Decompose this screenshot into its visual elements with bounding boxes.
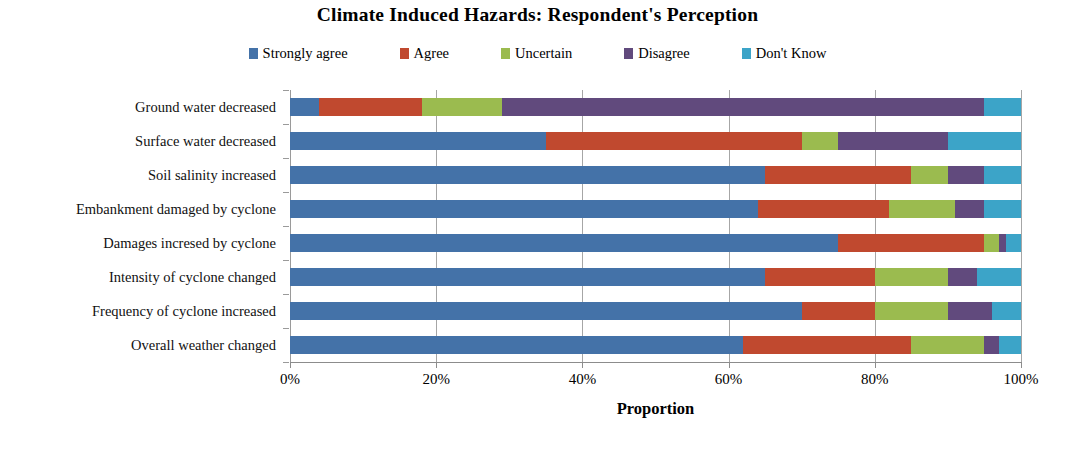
bar-segment[interactable] <box>502 98 984 116</box>
bar-segment[interactable] <box>911 166 948 184</box>
legend-item[interactable]: Agree <box>400 46 449 61</box>
stacked-bar[interactable] <box>290 234 1021 252</box>
bar-row <box>290 226 1021 260</box>
stacked-bar[interactable] <box>290 336 1021 354</box>
bar-segment[interactable] <box>290 132 546 150</box>
stacked-bar[interactable] <box>290 302 1021 320</box>
bar-row <box>290 328 1021 362</box>
bar-segment[interactable] <box>290 98 319 116</box>
bar-segment[interactable] <box>290 336 743 354</box>
stacked-bar[interactable] <box>290 166 1021 184</box>
x-axis-ticks <box>290 362 1021 368</box>
legend-label: Don't Know <box>756 46 827 61</box>
bar-segment[interactable] <box>802 132 839 150</box>
legend-item[interactable]: Uncertain <box>501 46 572 61</box>
legend-swatch-icon <box>742 48 751 59</box>
y-axis-label: Ground water decreased <box>0 90 283 124</box>
bar-segment[interactable] <box>948 132 1021 150</box>
legend-swatch-icon <box>624 48 633 59</box>
stacked-bar[interactable] <box>290 268 1021 286</box>
x-axis-tick <box>875 362 876 368</box>
y-axis-label: Frequency of cyclone increased <box>0 294 283 328</box>
legend-swatch-icon <box>501 48 510 59</box>
y-axis-tick <box>283 90 289 91</box>
gridline <box>1021 90 1022 362</box>
chart-title: Climate Induced Hazards: Respondent's Pe… <box>0 4 1075 26</box>
bar-segment[interactable] <box>838 132 948 150</box>
x-axis-title: Proportion <box>290 399 1021 419</box>
bar-row <box>290 192 1021 226</box>
bar-segment[interactable] <box>999 336 1021 354</box>
bar-segment[interactable] <box>984 166 1021 184</box>
bar-segment[interactable] <box>290 200 758 218</box>
bar-segment[interactable] <box>875 268 948 286</box>
stacked-bar[interactable] <box>290 132 1021 150</box>
legend-swatch-icon <box>400 48 409 59</box>
y-axis-label: Soil salinity increased <box>0 158 283 192</box>
x-axis-tick-label: 20% <box>422 371 450 388</box>
y-axis-label: Intensity of cyclone changed <box>0 260 283 294</box>
x-axis-tick-label: 40% <box>569 371 597 388</box>
bar-row <box>290 158 1021 192</box>
bar-segment[interactable] <box>758 200 890 218</box>
bar-segment[interactable] <box>948 302 992 320</box>
bar-segment[interactable] <box>948 166 985 184</box>
bar-segment[interactable] <box>984 234 999 252</box>
x-axis-tick <box>1021 362 1022 368</box>
legend-item[interactable]: Strongly agree <box>249 46 348 61</box>
y-axis-tick <box>283 294 289 295</box>
bar-segment[interactable] <box>992 302 1021 320</box>
stacked-bar[interactable] <box>290 98 1021 116</box>
bar-segment[interactable] <box>875 302 948 320</box>
bar-segment[interactable] <box>290 268 765 286</box>
legend-label: Disagree <box>638 46 690 61</box>
bar-segment[interactable] <box>889 200 955 218</box>
bar-segment[interactable] <box>765 268 875 286</box>
bar-segment[interactable] <box>802 302 875 320</box>
y-axis-tick <box>283 158 289 159</box>
x-axis-tick-label: 100% <box>1004 371 1039 388</box>
bar-segment[interactable] <box>948 268 977 286</box>
y-axis-label: Surface water decreased <box>0 124 283 158</box>
x-axis-tick <box>729 362 730 368</box>
bar-row <box>290 90 1021 124</box>
legend-label: Uncertain <box>515 46 572 61</box>
bar-segment[interactable] <box>422 98 502 116</box>
bar-row <box>290 294 1021 328</box>
bar-segment[interactable] <box>546 132 802 150</box>
stacked-bar-chart: Climate Induced Hazards: Respondent's Pe… <box>0 0 1075 457</box>
bar-segment[interactable] <box>290 234 838 252</box>
x-axis-tick <box>582 362 583 368</box>
y-axis-labels: Ground water decreasedSurface water decr… <box>0 90 283 362</box>
y-axis-tick <box>283 328 289 329</box>
x-axis-tick-label: 0% <box>280 371 300 388</box>
bar-segment[interactable] <box>290 166 765 184</box>
bar-segment[interactable] <box>319 98 421 116</box>
y-axis-tick <box>283 260 289 261</box>
legend-item[interactable]: Don't Know <box>742 46 827 61</box>
bar-segment[interactable] <box>984 336 999 354</box>
y-axis-tick <box>283 362 289 363</box>
bar-segment[interactable] <box>984 200 1021 218</box>
bar-segment[interactable] <box>955 200 984 218</box>
y-axis-label: Damages incresed by cyclone <box>0 226 283 260</box>
bar-segment[interactable] <box>743 336 911 354</box>
bar-segment[interactable] <box>999 234 1006 252</box>
bar-row <box>290 260 1021 294</box>
bar-segment[interactable] <box>838 234 984 252</box>
x-axis-tick-label: 80% <box>861 371 889 388</box>
bar-segment[interactable] <box>290 302 802 320</box>
y-axis-label: Embankment damaged by cyclone <box>0 192 283 226</box>
y-axis-tick <box>283 124 289 125</box>
bar-segment[interactable] <box>984 98 1021 116</box>
y-axis-tick <box>283 192 289 193</box>
bar-segment[interactable] <box>1006 234 1021 252</box>
x-axis-tick <box>436 362 437 368</box>
stacked-bar[interactable] <box>290 200 1021 218</box>
legend-item[interactable]: Disagree <box>624 46 690 61</box>
bar-segment[interactable] <box>977 268 1021 286</box>
chart-legend: Strongly agreeAgreeUncertainDisagreeDon'… <box>0 46 1075 61</box>
bar-segment[interactable] <box>911 336 984 354</box>
bar-segment[interactable] <box>765 166 911 184</box>
plot-area <box>290 90 1021 362</box>
